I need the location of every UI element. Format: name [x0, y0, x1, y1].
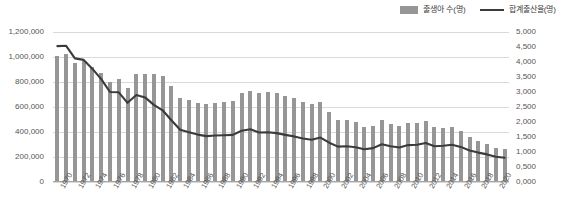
y-axis-right-tick: 2,500 — [516, 103, 536, 111]
y-axis-right-tick: 5,000 — [516, 28, 536, 36]
y-axis-right: 5,0004,5004,0003,5003,0002,5002,0001,500… — [512, 32, 564, 182]
legend-label-fertility: 합계출산율(명) — [509, 6, 556, 14]
y-axis-left-tick: 1,200,000 — [8, 28, 44, 36]
y-axis-right-tick: 0,000 — [516, 178, 536, 186]
y-axis-right-tick: 0,500 — [516, 163, 536, 171]
y-axis-left: 1,200,0001,000,000800,000600,000400,0002… — [0, 32, 48, 182]
legend-item-fertility: 합계출산율(명) — [480, 6, 556, 14]
y-axis-left-tick: 0 — [40, 178, 44, 186]
y-axis-left-tick: 1,000,000 — [8, 53, 44, 61]
legend-item-births: 출생아 수(명) — [400, 6, 466, 14]
chart-legend: 출생아 수(명) 합계출산율(명) — [0, 2, 566, 18]
y-axis-right-tick: 4,500 — [516, 43, 536, 51]
bar-swatch-icon — [400, 6, 418, 14]
y-axis-right-tick: 3,500 — [516, 73, 536, 81]
x-axis-labels: 1970197219741976197819801982198419861988… — [53, 186, 509, 216]
y-axis-right-tick: 4,000 — [516, 58, 536, 66]
plot-area — [53, 32, 509, 182]
y-axis-left-tick: 200,000 — [15, 153, 44, 161]
birth-statistics-chart: 출생아 수(명) 합계출산율(명) 1,200,0001,000,000800,… — [0, 0, 566, 216]
y-axis-left-tick: 400,000 — [15, 128, 44, 136]
y-axis-left-tick: 600,000 — [15, 103, 44, 111]
line-swatch-icon — [480, 9, 504, 11]
y-axis-right-tick: 3,000 — [516, 88, 536, 96]
y-axis-right-tick: 1,500 — [516, 133, 536, 141]
y-axis-right-tick: 1,000 — [516, 148, 536, 156]
y-axis-left-tick: 800,000 — [15, 78, 44, 86]
legend-label-births: 출생아 수(명) — [423, 6, 466, 14]
y-axis-right-tick: 2,000 — [516, 118, 536, 126]
line-series-fertility — [53, 32, 509, 182]
